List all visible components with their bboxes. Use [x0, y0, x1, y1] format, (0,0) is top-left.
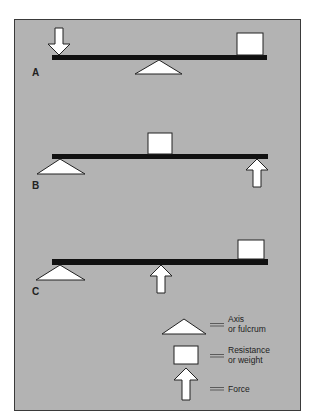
legend — [162, 319, 224, 400]
legend-resistance-line1: Resistance — [228, 345, 270, 355]
beam-b — [52, 154, 268, 159]
fulcrum-triangle-b — [37, 159, 85, 174]
lever-diagram — [0, 0, 321, 420]
panel-a — [48, 28, 267, 74]
force-arrow-up-icon — [246, 159, 268, 187]
equals-icon — [210, 355, 224, 358]
resistance-box-c — [238, 240, 264, 259]
force-arrow-down-icon — [48, 28, 70, 55]
panel-label-b: B — [32, 180, 39, 191]
arrow-up-icon — [174, 368, 198, 400]
equals-icon — [210, 324, 224, 327]
panel-b — [37, 133, 268, 187]
legend-axis-line2: or fulcrum — [228, 324, 266, 334]
force-arrow-up-icon — [150, 265, 172, 293]
beam-c — [52, 259, 268, 265]
legend-force-label: Force — [228, 384, 250, 394]
panel-label-c: C — [32, 286, 39, 297]
fulcrum-triangle-c — [36, 265, 85, 280]
panel-label-a: A — [32, 67, 39, 78]
triangle-icon — [162, 319, 206, 334]
legend-resistance-line2: or weight — [228, 355, 270, 365]
panel-c — [36, 240, 268, 293]
resistance-box-b — [148, 133, 172, 154]
legend-resistance-label: Resistance or weight — [228, 345, 270, 365]
equals-icon — [210, 388, 224, 391]
fulcrum-triangle-a — [135, 60, 182, 74]
box-icon — [174, 346, 198, 364]
legend-axis-line1: Axis — [228, 314, 266, 324]
resistance-box-a — [237, 33, 263, 55]
beam-a — [52, 55, 267, 60]
legend-axis-label: Axis or fulcrum — [228, 314, 266, 334]
